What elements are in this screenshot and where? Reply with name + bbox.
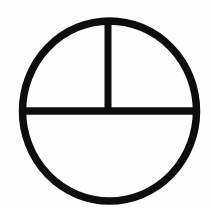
image-canvas: circle-with-horizontal-diameter-and-uppe… bbox=[0, 0, 211, 208]
quartered-circle-symbol: circle-with-horizontal-diameter-and-uppe… bbox=[0, 0, 211, 208]
